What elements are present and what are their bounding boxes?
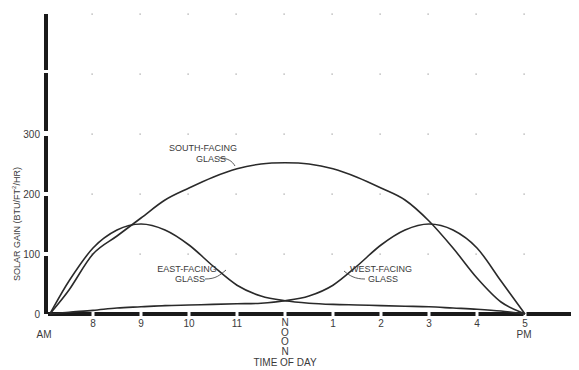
svg-text:GLASS: GLASS: [196, 154, 226, 164]
x-tick-label: N: [281, 346, 288, 357]
grid-dots: [92, 14, 525, 255]
y-tick-label: 300: [23, 129, 40, 140]
pm-label: PM: [517, 329, 532, 340]
series-label-south: SOUTH-FACING GLASS: [169, 143, 237, 166]
series-label-west: WEST-FACING GLASS: [344, 264, 412, 284]
y-axis: [44, 14, 48, 314]
y-axis-label: SOLAR GAIN (BTU/FT2/HR): [11, 167, 22, 281]
series-label-east: EAST-FACING GLASS: [157, 264, 226, 284]
y-tick-label: 0: [34, 309, 40, 320]
x-tick-label: 2: [378, 318, 384, 329]
x-tick-label: 11: [232, 318, 243, 329]
x-tick-label: 3: [426, 318, 432, 329]
y-tick-label: 100: [23, 249, 40, 260]
x-tick-label: 1: [330, 318, 336, 329]
west-facing-curve: [50, 224, 525, 314]
x-tick-label: 4: [474, 318, 480, 329]
y-tick-label: 200: [23, 189, 40, 200]
data-series: [50, 163, 525, 314]
x-axis: [48, 312, 571, 316]
solar-gain-chart: 0100200300 SOLAR GAIN (BTU/FT2/HR) 89101…: [0, 0, 579, 370]
x-tick-labels: 891011NOON12345: [90, 317, 528, 357]
south-facing-curve: [50, 163, 525, 314]
x-tick-label: 10: [183, 318, 195, 329]
svg-text:EAST-FACING: EAST-FACING: [157, 264, 217, 274]
svg-text:WEST-FACING: WEST-FACING: [350, 264, 412, 274]
svg-text:GLASS: GLASS: [175, 274, 205, 284]
x-tick-label: 5: [522, 318, 528, 329]
am-label: AM: [37, 329, 52, 340]
svg-text:GLASS: GLASS: [368, 274, 398, 284]
x-tick-label: 9: [138, 318, 144, 329]
x-axis-label: TIME OF DAY: [253, 357, 316, 368]
svg-text:SOUTH-FACING: SOUTH-FACING: [169, 143, 237, 153]
y-tick-labels: 0100200300: [23, 129, 40, 320]
x-tick-label: 8: [90, 318, 96, 329]
